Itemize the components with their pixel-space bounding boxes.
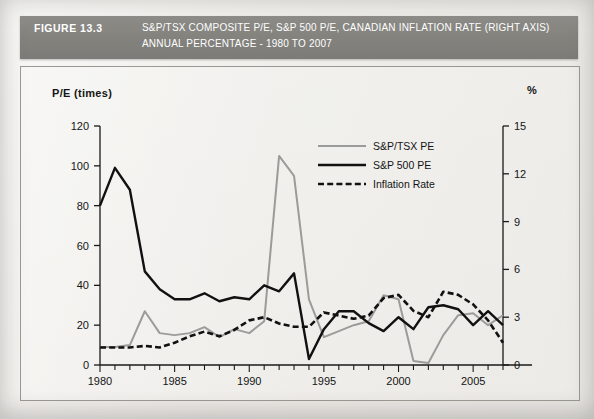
figure-page: FIGURE 13.3 S&P/TSX COMPOSITE P/E, S&P 5…: [0, 0, 594, 419]
y-axis-tick-label: 100: [71, 160, 89, 172]
legend-label-1: S&P/TSX PE: [373, 140, 434, 152]
y2-axis-tick-label: 15: [514, 120, 526, 132]
y-axis-tick-label: 0: [83, 359, 89, 371]
y-axis-tick-label: 20: [77, 319, 89, 331]
legend-label-3: Inflation Rate: [373, 178, 435, 190]
y2-axis-tick-label: 6: [514, 263, 520, 275]
x-axis-tick-label: 1980: [88, 375, 112, 387]
y2-axis-tick-label: 0: [514, 359, 520, 371]
series-layer: [100, 156, 503, 363]
y-axis-tick-label: 60: [77, 240, 89, 252]
y2-axis-tick-label: 9: [514, 216, 520, 228]
legend-label-2: S&P 500 PE: [373, 159, 431, 171]
x-axis-tick-label: 2005: [461, 375, 485, 387]
x-axis-tick-label: 2000: [386, 375, 410, 387]
series-line-s-p-500-pe: [100, 168, 503, 359]
x-axis-tick-label: 1990: [237, 375, 261, 387]
y2-axis-tick-label: 3: [514, 311, 520, 323]
series-line-s-p-tsx-pe: [100, 156, 503, 363]
y-axis-tick-label: 80: [77, 200, 89, 212]
y-axis-tick-label: 40: [77, 279, 89, 291]
x-axis-tick-label: 1985: [162, 375, 186, 387]
y2-axis-tick-label: 12: [514, 168, 526, 180]
chart-canvas: 0204060801001200369121519801985199019952…: [0, 0, 594, 419]
y-axis-tick-label: 120: [71, 120, 89, 132]
legend-layer: S&P/TSX PES&P 500 PEInflation Rate: [318, 140, 435, 190]
x-axis-tick-label: 1995: [312, 375, 336, 387]
